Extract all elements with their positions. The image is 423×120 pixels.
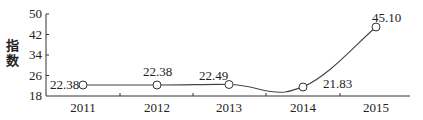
data-point-marker (299, 83, 307, 91)
data-label: 22.38 (143, 64, 172, 79)
line-chart: 18 26 34 42 50 2011 2012 2013 2014 2015 … (0, 0, 423, 120)
data-label: 45.10 (372, 10, 401, 25)
data-point-marker (153, 81, 161, 89)
x-tick-label: 2012 (144, 100, 170, 115)
x-tick-label: 2015 (363, 100, 389, 115)
data-label: 21.83 (323, 76, 352, 91)
y-tick-label: 26 (29, 68, 43, 83)
y-tick-label: 18 (29, 88, 42, 103)
x-tick-label: 2014 (290, 100, 317, 115)
x-tick-label: 2013 (216, 100, 242, 115)
y-tick-label: 50 (29, 6, 42, 21)
data-label: 22.38 (50, 77, 79, 92)
y-tick-label: 34 (29, 47, 43, 62)
data-point-marker (79, 81, 87, 89)
data-label: 22.49 (199, 68, 228, 83)
x-tick-label: 2011 (70, 100, 96, 115)
y-tick-label: 42 (29, 27, 42, 42)
